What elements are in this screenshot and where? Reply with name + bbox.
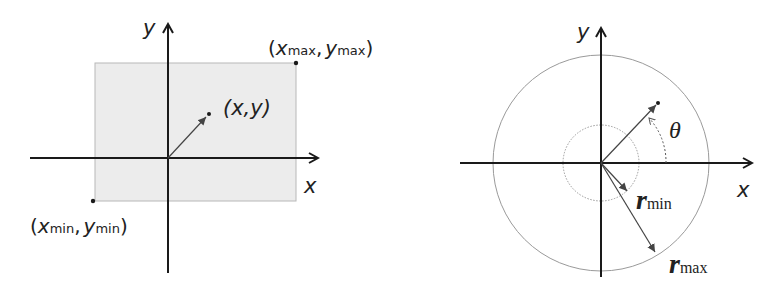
- point-xy-dot: [207, 112, 211, 116]
- y-symbol: y: [325, 36, 337, 60]
- polar-x-axis-label: x: [737, 180, 749, 201]
- point-xy-label: (x,y): [223, 98, 271, 119]
- ray-endpoint-dot: [656, 101, 660, 105]
- r-symbol: r: [636, 184, 647, 215]
- comma: ,: [74, 214, 80, 238]
- theta-arc: [649, 118, 666, 163]
- polar-y-axis-label: y: [577, 22, 589, 43]
- cartesian-x-axis-label: x: [304, 176, 316, 197]
- rmin-vector: [601, 163, 627, 191]
- diagram-graphics: [0, 0, 782, 287]
- x-subscript: min: [50, 221, 75, 236]
- paren-close: ): [366, 36, 374, 60]
- max-corner-dot: [294, 61, 298, 65]
- x-symbol: x: [38, 214, 50, 238]
- rmin-label: rmin: [636, 186, 672, 214]
- paren-close: ): [120, 214, 128, 238]
- rmin-subscript: min: [647, 195, 672, 212]
- rmax-label: rmax: [669, 250, 707, 278]
- y-subscript: max: [337, 43, 365, 58]
- min-corner-dot: [91, 199, 95, 203]
- paren-open: (: [30, 214, 38, 238]
- y-symbol: y: [84, 214, 96, 238]
- y-subscript: min: [95, 221, 120, 236]
- comma: ,: [316, 36, 322, 60]
- x-symbol: x: [276, 36, 288, 60]
- diagram-canvas: y x (x,y) (xmax,ymax) (xmin,ymin) y x θ …: [0, 0, 782, 287]
- cartesian-y-axis-label: y: [143, 18, 155, 39]
- x-subscript: max: [288, 43, 316, 58]
- bounding-rectangle: [95, 63, 296, 201]
- r-symbol: r: [669, 248, 680, 279]
- rmax-subscript: max: [680, 259, 708, 276]
- min-corner-label: (xmin,ymin): [30, 216, 128, 236]
- theta-label: θ: [669, 118, 681, 142]
- max-corner-label: (xmax,ymax): [268, 38, 373, 58]
- polar-diagram: [460, 28, 752, 277]
- paren-open: (: [268, 36, 276, 60]
- angle-ray: [601, 105, 656, 163]
- point-xy-text: (x,y): [223, 96, 271, 120]
